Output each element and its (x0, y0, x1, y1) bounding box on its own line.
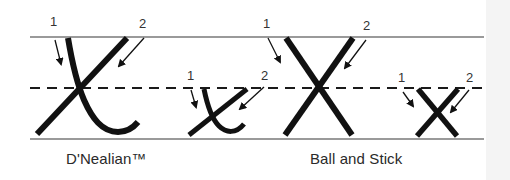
stroke-number-1: 1 (187, 68, 194, 83)
ball-and-stick-caption: Ball and Stick (310, 150, 402, 167)
ballstick-lowercase-x: 1 2 (398, 70, 473, 136)
stroke-number-2: 2 (466, 70, 473, 85)
stroke-number-1: 1 (263, 16, 270, 31)
arrow-icon (55, 40, 61, 64)
stroke-number-2: 2 (139, 16, 146, 31)
stroke-number-2: 2 (261, 68, 268, 83)
stroke-number-1: 1 (398, 70, 405, 85)
dnealian-uppercase-x: 1 2 (37, 14, 146, 134)
stroke-number-2: 2 (363, 18, 370, 33)
ballstick-uppercase-x: 1 2 (263, 16, 370, 135)
dnealian-lowercase-x: 1 2 (187, 68, 268, 135)
arrow-icon (191, 90, 196, 107)
arrow-icon (403, 92, 413, 106)
stroke-number-1: 1 (50, 14, 57, 29)
arrow-icon (268, 38, 280, 62)
dnealian-caption: D'Nealian™ (66, 150, 147, 167)
